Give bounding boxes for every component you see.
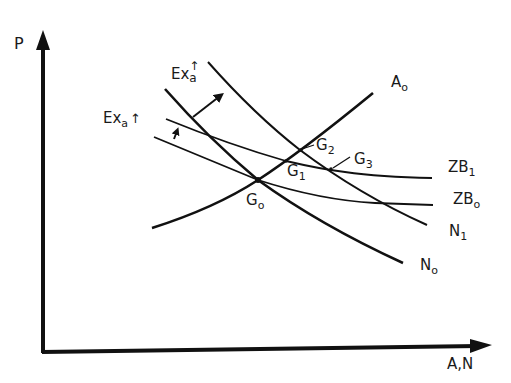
label-zb0: ZBo (453, 192, 480, 210)
label-g2: G2 (316, 138, 335, 156)
label-n0-main: N (420, 256, 431, 274)
label-g0: Go (246, 193, 264, 211)
label-g3-sub: 3 (366, 158, 373, 171)
label-a0: Ao (391, 75, 408, 93)
label-n0: No (420, 258, 438, 276)
label-zb1: ZB1 (448, 160, 476, 178)
shift-arrow-n (193, 96, 220, 117)
label-n1-sub: 1 (460, 230, 467, 243)
label-n1: N1 (449, 224, 467, 242)
y-axis-label: P (14, 36, 24, 52)
label-g1: G1 (287, 164, 306, 182)
label-zb1-sub: 1 (469, 166, 476, 179)
x-axis-label: A,N (447, 357, 473, 372)
point-g3 (329, 167, 333, 171)
label-g1-sub: 1 (299, 170, 306, 183)
label-g2-main: G (316, 136, 328, 154)
label-ex-shift-n: Ex ↑ a (171, 67, 199, 82)
label-a0-sub: o (401, 81, 408, 94)
label-ex-zb-main: Ex (103, 109, 121, 127)
label-zb1-main: ZB (448, 158, 469, 176)
label-g0-main: G (246, 191, 258, 209)
label-g2-sub: 2 (328, 144, 335, 157)
g3-leader (333, 157, 350, 168)
shift-arrow-zb (174, 131, 177, 139)
label-g3: G3 (354, 152, 373, 170)
label-ex-n-sub: a (189, 72, 196, 84)
label-g1-main: G (287, 162, 299, 180)
label-n0-sub: o (431, 264, 438, 277)
up-arrow-icon: ↑ (130, 111, 141, 126)
label-ex-shift-zb: Exa↑ (103, 111, 141, 129)
label-n1-main: N (449, 222, 460, 240)
label-g0-sub: o (258, 199, 265, 212)
label-zb0-main: ZB (453, 190, 474, 208)
x-axis (42, 339, 492, 353)
curve-n0 (165, 89, 403, 263)
y-axis (36, 30, 50, 353)
label-zb0-sub: o (474, 198, 481, 211)
label-g3-main: G (354, 150, 366, 168)
point-g0 (255, 177, 261, 183)
point-g2 (299, 148, 303, 152)
label-a0-main: A (391, 73, 401, 91)
label-ex-n-main: Ex (171, 65, 189, 83)
label-ex-zb-sub: a (121, 117, 128, 130)
